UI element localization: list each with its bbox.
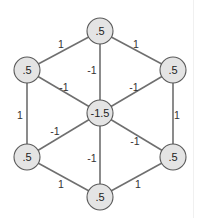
node-lower-right: .5 (160, 144, 186, 170)
graph-diagram: 111111-1-1-1-1-1-1 .5.5.5-1.5.5.5.5 (0, 0, 199, 218)
edge-weight-label: 1 (17, 109, 23, 121)
edge-weight-label: -1 (129, 81, 138, 93)
edge-weight-label: 1 (133, 38, 139, 50)
edge-weight-label: -1 (59, 81, 68, 93)
node-value-label: .5 (95, 25, 104, 37)
edge-weight-label: 1 (135, 178, 141, 190)
edge-weight-label: -1 (130, 135, 139, 147)
right-edge-divider (193, 0, 194, 218)
node-center: -1.5 (87, 100, 113, 126)
edge-weight-label: -1 (87, 64, 96, 76)
node-value-label: -1.5 (91, 107, 110, 119)
node-value-label: .5 (22, 151, 31, 163)
node-upper-left: .5 (14, 57, 40, 83)
node-lower-left: .5 (14, 144, 40, 170)
edge-weight-label: -1 (50, 125, 59, 137)
node-upper-right: .5 (160, 57, 186, 83)
edge-weight-label: 1 (58, 38, 64, 50)
node-top: .5 (87, 18, 113, 44)
node-value-label: .5 (95, 191, 104, 203)
node-value-label: .5 (168, 151, 177, 163)
node-value-label: .5 (168, 64, 177, 76)
edge-weight-label: -1 (87, 152, 96, 164)
edge-weight-label: 1 (174, 109, 180, 121)
node-value-label: .5 (22, 64, 31, 76)
node-bottom: .5 (87, 184, 113, 210)
edge-weight-label: 1 (58, 178, 64, 190)
